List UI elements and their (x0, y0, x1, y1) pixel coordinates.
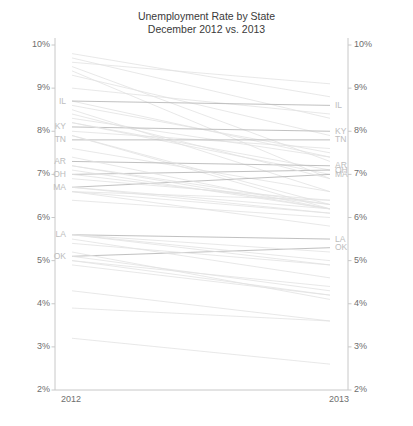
state-label-left-oh: OH (30, 169, 66, 179)
y-axis-tick-label-right: 2% (354, 384, 396, 394)
x-axis-label-2013: 2013 (329, 394, 349, 404)
state-label-left-ar: AR (30, 156, 66, 166)
y-axis-tick-label-right: 4% (354, 298, 396, 308)
slope-line (72, 88, 330, 114)
plot-area (0, 0, 413, 426)
state-label-left-tn: TN (30, 134, 66, 144)
slope-line (72, 192, 330, 201)
slope-line (72, 239, 330, 278)
state-label-left-il: IL (30, 96, 66, 106)
slope-line (72, 338, 330, 364)
slope-line (72, 118, 330, 157)
y-axis-tick-label-right: 3% (354, 341, 396, 351)
slopegraph-chart: Unemployment Rate by StateDecember 2012 … (0, 0, 413, 426)
y-axis-tick-label-right: 5% (354, 255, 396, 265)
y-axis-tick-label-right: 10% (354, 39, 396, 49)
slope-line (72, 308, 330, 321)
slope-line (72, 291, 330, 321)
slope-line (72, 54, 330, 97)
y-axis-tick-label-left: 2% (8, 384, 50, 394)
y-axis-tick-label-right: 9% (354, 82, 396, 92)
state-label-left-ok: OK (30, 251, 66, 261)
slope-line (72, 252, 330, 299)
slope-line (72, 261, 330, 296)
slope-line (72, 75, 330, 135)
state-label-left-la: LA (30, 229, 66, 239)
state-label-right-tn: TN (335, 134, 371, 144)
y-axis-tick-label-right: 6% (354, 212, 396, 222)
slope-line (72, 101, 330, 105)
y-axis-tick-label-left: 9% (8, 82, 50, 92)
slope-line (72, 235, 330, 265)
slope-lines-group (72, 54, 330, 365)
state-label-left-ky: KY (30, 121, 66, 131)
slope-line (72, 265, 330, 295)
y-axis-tick-label-left: 6% (8, 212, 50, 222)
x-axis-label-2012: 2012 (61, 394, 81, 404)
slope-line (72, 110, 330, 192)
slope-line (72, 248, 330, 257)
state-label-left-ma: MA (30, 182, 66, 192)
state-label-right-il: IL (335, 100, 371, 110)
state-label-right-ma: MA (335, 169, 371, 179)
y-axis-tick-label-left: 3% (8, 341, 50, 351)
y-axis-tick-label-left: 10% (8, 39, 50, 49)
state-label-right-ok: OK (335, 242, 371, 252)
y-axis-tick-label-left: 4% (8, 298, 50, 308)
